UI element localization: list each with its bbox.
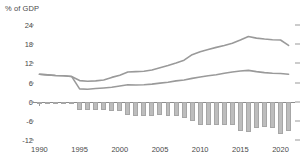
chart-page: % of GDP 24181260-6-12 19901995200020052… [0,0,305,163]
line-series [0,0,305,163]
upper-line-path [39,37,288,82]
